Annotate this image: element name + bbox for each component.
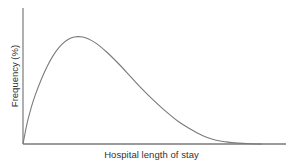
y-axis-label: Frequency (%) (9, 45, 20, 107)
distribution-curve (23, 37, 262, 144)
x-axis-label: Hospital length of stay (0, 149, 300, 160)
chart-canvas (0, 0, 300, 167)
